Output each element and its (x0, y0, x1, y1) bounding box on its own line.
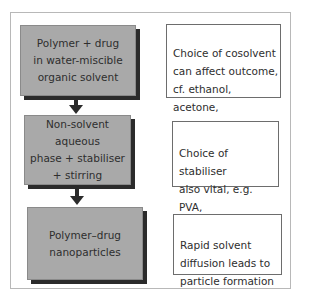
step-box-nanoparticles: Polymer–drug nanoparticles (27, 207, 143, 280)
note-cosolvent: Choice of cosolvent can affect outcome, … (166, 24, 281, 98)
step-label: Polymer–drug nanoparticles (49, 227, 121, 261)
step-label: Non-solvent aqueous phase + stabiliser +… (25, 116, 130, 184)
note-solvent-diffusion: Rapid solvent diffusion leads to particl… (173, 214, 282, 275)
step-box-polymer-drug-solvent: Polymer + drug in water-miscible organic… (20, 25, 136, 96)
flow-arrow-down-icon (70, 196, 84, 205)
flow-arrow-down-icon (69, 105, 83, 114)
note-text: Rapid solvent diffusion leads to particl… (180, 239, 274, 287)
step-box-aqueous-phase: Non-solvent aqueous phase + stabiliser +… (24, 115, 131, 185)
step-label: Polymer + drug in water-miscible organic… (33, 35, 122, 86)
note-stabiliser: Choice of stabiliser also vital, e.g. PV… (172, 121, 279, 187)
